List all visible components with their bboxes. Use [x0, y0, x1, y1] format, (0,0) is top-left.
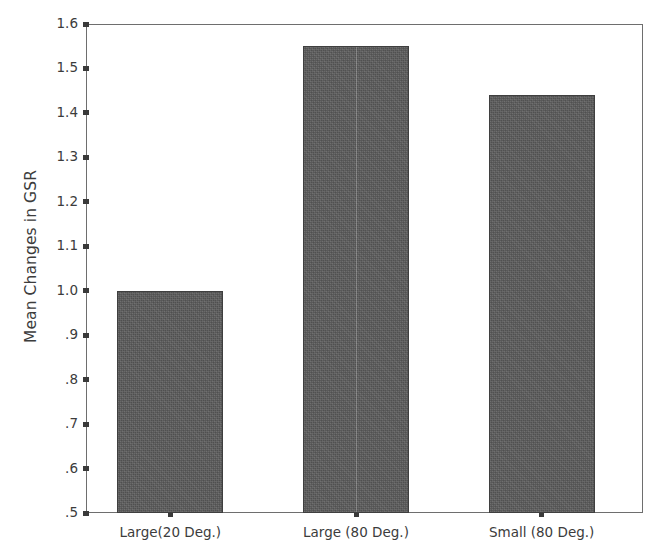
y-tick-mark: [83, 422, 89, 427]
y-tick-label: 1.4: [34, 104, 78, 120]
x-tick-label: Large(20 Deg.): [120, 524, 222, 540]
y-tick-label: 1.2: [34, 193, 78, 209]
y-tick-label: 1.1: [34, 237, 78, 253]
bar: [489, 95, 595, 513]
y-tick-mark: [83, 155, 89, 160]
x-tick-label: Small (80 Deg.): [489, 524, 594, 540]
y-tick-mark: [83, 244, 89, 249]
y-tick-mark: [83, 377, 89, 382]
y-tick-mark: [83, 66, 89, 71]
y-axis-title: Mean Changes in GSR: [14, 0, 48, 513]
y-tick-mark: [83, 288, 89, 293]
y-tick-mark: [83, 22, 89, 27]
y-tick-label: 1.3: [34, 148, 78, 164]
bar: [117, 291, 223, 513]
y-tick-label: 1.6: [34, 15, 78, 31]
y-tick-label: 1.5: [34, 59, 78, 75]
y-tick-label: .6: [34, 460, 78, 476]
y-tick-label: 1.0: [34, 282, 78, 298]
y-tick-label: .9: [34, 326, 78, 342]
y-tick-mark: [83, 110, 89, 115]
y-tick-label: .5: [34, 504, 78, 520]
bar-chart: Mean Changes in GSR .5.6.7.8.91.01.11.21…: [0, 0, 667, 558]
y-tick-mark: [83, 199, 89, 204]
bar-seam-artifact: [356, 47, 357, 512]
y-tick-mark: [83, 333, 89, 338]
y-tick-mark: [83, 466, 89, 471]
x-tick-label: Large (80 Deg.): [303, 524, 409, 540]
y-tick-mark: [83, 511, 89, 516]
y-tick-label: .8: [34, 371, 78, 387]
bar: [303, 46, 409, 513]
y-tick-label: .7: [34, 415, 78, 431]
